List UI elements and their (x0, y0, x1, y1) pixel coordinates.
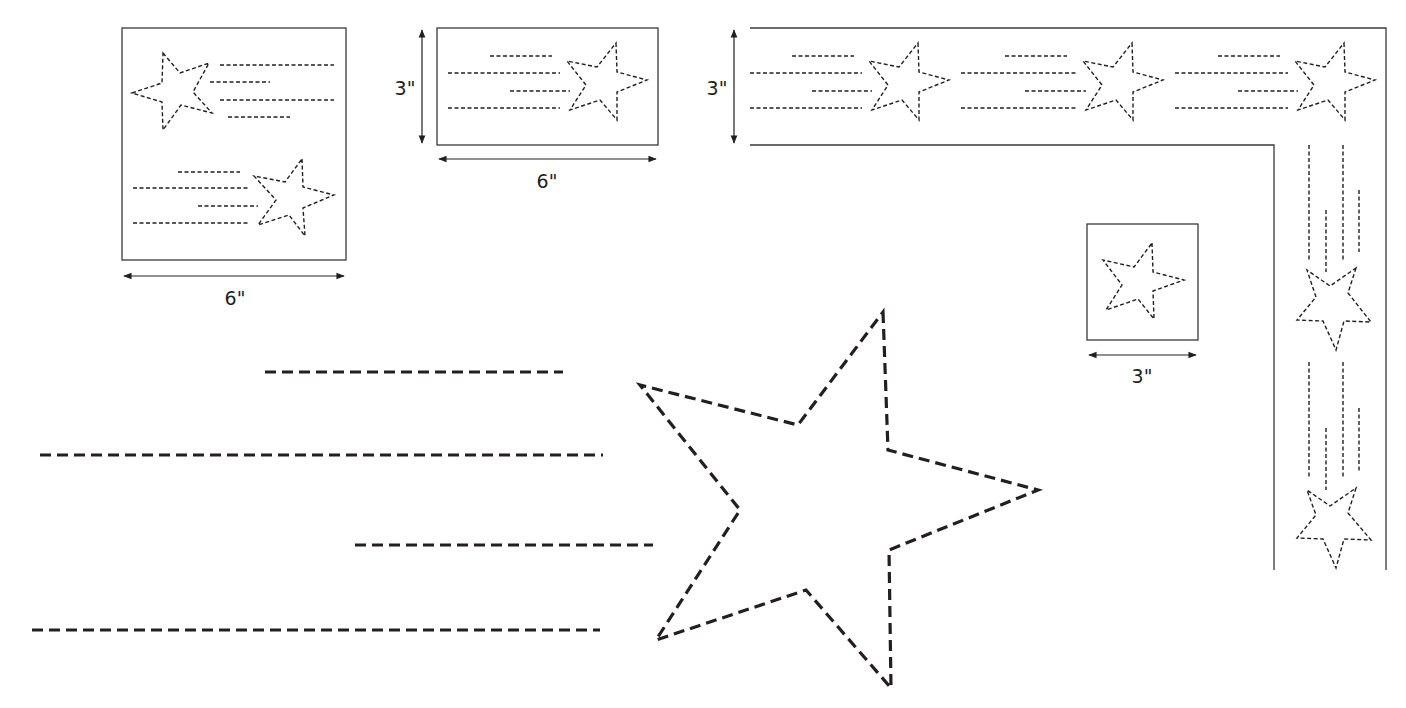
square-3x3-panel (1087, 224, 1198, 355)
trail-lines (210, 65, 334, 117)
rect-3x6-frame (437, 28, 658, 145)
star-icon (567, 43, 647, 120)
rect-height-label: 3" (395, 77, 416, 99)
trail-lines (32, 372, 653, 630)
star-icon (1297, 268, 1371, 350)
small-square-width-label: 3" (1132, 365, 1153, 387)
star-icon (1297, 488, 1371, 568)
star-icon (1083, 43, 1163, 120)
square-6x6-panel (122, 28, 346, 276)
border-frame (750, 28, 1386, 570)
trail-lines (750, 56, 872, 108)
star-icon (132, 53, 212, 130)
rect-width-label: 6" (537, 170, 558, 192)
square-width-label: 6" (225, 287, 246, 309)
star-icon (869, 43, 949, 120)
trail-lines (133, 172, 258, 223)
large-star-icon (640, 312, 1038, 688)
trail-lines (1309, 362, 1359, 490)
square-6x6-frame (122, 28, 346, 260)
star-icon (1295, 43, 1375, 120)
trail-lines (961, 56, 1086, 108)
trail-lines (1309, 145, 1359, 272)
border-height-label: 3" (707, 77, 728, 99)
square-3x3-frame (1087, 224, 1198, 340)
stencil-diagram (0, 0, 1406, 708)
corner-border-panel (734, 28, 1386, 570)
star-icon (1103, 243, 1184, 319)
trail-lines (448, 56, 570, 108)
full-size-pattern (32, 312, 1038, 688)
star-icon (254, 159, 334, 236)
trail-lines (1175, 56, 1298, 108)
rect-3x6-panel (422, 28, 658, 159)
